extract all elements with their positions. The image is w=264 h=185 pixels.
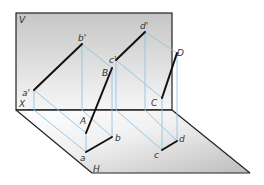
label-c: c xyxy=(154,150,159,160)
label-a: a xyxy=(80,153,86,163)
label-B: B xyxy=(102,68,108,78)
vertical-plane xyxy=(16,13,172,110)
label-d: d xyxy=(179,134,185,144)
label-x-axis: X xyxy=(18,99,26,109)
label-A: A xyxy=(79,116,86,126)
label-h-plane: H xyxy=(93,164,100,174)
horizontal-plane xyxy=(16,110,250,173)
label-d-prime: d' xyxy=(140,21,148,31)
label-b-prime: b' xyxy=(78,33,86,43)
projection-diagram: V X H a' b' c' d' A B C D a b c d xyxy=(0,0,264,185)
label-D: D xyxy=(177,48,184,58)
label-v-plane: V xyxy=(19,15,26,25)
label-b: b xyxy=(115,133,121,143)
label-C: C xyxy=(151,98,158,108)
label-c-prime: c' xyxy=(109,55,116,65)
label-a-prime: a' xyxy=(22,88,30,98)
